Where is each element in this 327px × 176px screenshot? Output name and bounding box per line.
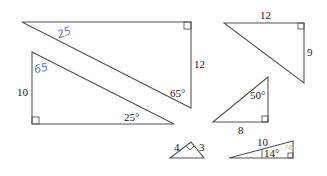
t2-handwritten-65: 65 [33,60,49,76]
triangle-4: 50° 8 [213,77,268,136]
t2-side-10: 10 [17,86,29,98]
t1-angle-65: 65° [170,87,185,99]
triangle-worksheet: 12 65° 25 10 25° 65 12 9 50° 8 4 3 10 14… [0,0,327,176]
t2-angle-25: 25° [124,111,139,123]
t1-handwritten-25: 25 [55,24,73,41]
triangle-2: 10 25° 65 [17,52,174,124]
t1-side-12: 12 [194,58,205,70]
right-angle-marker [184,22,191,29]
triangle-1: 12 65° 25 [22,22,205,108]
t3-side-9: 9 [307,46,313,58]
triangle-5: 4 3 [170,141,205,158]
right-angle-marker [298,23,304,29]
right-angle-marker [262,116,268,122]
right-angle-marker [32,117,39,124]
t4-angle-50: 50° [250,89,265,101]
t5-side-4: 4 [174,141,180,153]
t4-side-8: 8 [238,124,244,136]
triangle-6: 10 14° 76 [229,136,293,159]
right-angle-marker [186,146,194,150]
triangle-3: 12 9 [224,9,313,83]
t6-handwritten-76: 76 [284,144,293,152]
right-angle-marker [288,153,293,158]
t6-angle-14: 14° [264,147,279,159]
t5-side-3: 3 [199,141,205,153]
t3-side-12: 12 [260,9,271,21]
